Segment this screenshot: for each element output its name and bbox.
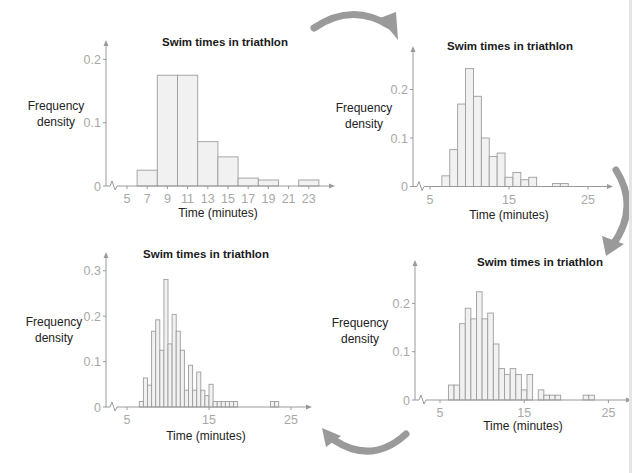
y-axis-arrow-icon: [413, 260, 418, 266]
x-tick-label: 25: [601, 406, 615, 420]
histogram-bar: [148, 385, 152, 407]
histogram-bar: [152, 331, 156, 407]
x-axis-arrow-icon: [329, 184, 335, 189]
x-axis-label: Time (minutes): [483, 419, 563, 433]
histogram-bar: [505, 177, 513, 186]
y-axis-arrow-icon: [411, 46, 416, 52]
histogram-bar: [221, 402, 225, 407]
histogram-bar: [139, 402, 143, 407]
chart-title: Swim times in triathlon: [162, 36, 288, 48]
histogram-bar: [218, 157, 238, 186]
y-tick-label: 0.3: [84, 264, 101, 278]
y-tick-label: 0.1: [84, 355, 101, 369]
y-axis-label: density: [345, 117, 383, 131]
histogram-bar: [213, 402, 217, 407]
histogram-bar: [521, 180, 529, 187]
histogram-bar: [513, 172, 521, 186]
x-tick-label: 7: [144, 192, 151, 206]
arrow-right-icon: [602, 170, 627, 256]
y-tick-label: 0: [401, 180, 408, 194]
histogram-bar: [450, 150, 458, 187]
histogram-bar: [299, 180, 319, 186]
histogram-bar: [143, 378, 147, 407]
histogram-bar: [184, 390, 188, 407]
x-tick-label: 15: [202, 413, 216, 427]
histogram-top-left: Swim times in triathlonFrequencydensityT…: [28, 36, 335, 220]
y-axis-label: Frequency: [332, 316, 389, 330]
histogram-bar: [198, 142, 218, 186]
y-tick-label: 0.2: [393, 297, 410, 311]
x-tick-label: 9: [164, 192, 171, 206]
histogram-top-right: Swim times in triathlonFrequencydensityT…: [336, 40, 613, 222]
histogram-cycle-figure: Swim times in triathlonFrequencydensityT…: [0, 0, 632, 473]
x-tick-label: 5: [437, 406, 444, 420]
y-tick-label: 0.2: [391, 83, 408, 97]
histogram-bar: [589, 395, 595, 400]
chart-title: Swim times in triathlon: [143, 248, 269, 260]
x-tick-label: 23: [302, 192, 316, 206]
x-tick-label: 11: [181, 192, 194, 206]
histogram-bar: [538, 390, 544, 400]
y-axis-arrow-icon: [104, 40, 109, 46]
y-axis-label: density: [37, 115, 75, 129]
x-tick-label: 25: [581, 193, 595, 207]
histogram-bar: [529, 177, 537, 186]
y-tick-label: 0.1: [393, 345, 410, 359]
y-tick-label: 0.1: [84, 116, 101, 130]
arrow-bottom-icon: [322, 428, 406, 451]
y-tick-label: 0: [94, 401, 101, 415]
histogram-bar: [482, 319, 488, 400]
histogram-bar: [454, 385, 460, 400]
histogram-bar: [460, 324, 466, 400]
histogram-bar: [157, 75, 177, 186]
histogram-bar: [583, 395, 589, 400]
histogram-bar: [189, 365, 193, 407]
y-tick-label: 0: [403, 394, 410, 408]
histogram-bar: [489, 156, 497, 186]
histogram-bar: [271, 402, 275, 407]
histogram-bar: [510, 369, 516, 400]
x-axis-label: Time (minutes): [166, 429, 246, 443]
histogram-bar: [275, 402, 279, 407]
histogram-bar: [160, 350, 164, 407]
histogram-bar: [555, 395, 561, 400]
chart-title: Swim times in triathlon: [477, 256, 603, 268]
histogram-bar: [521, 390, 527, 400]
histogram-bar: [499, 369, 505, 400]
histogram-bottom-right: Swim times in triathlonFrequencydensityT…: [332, 256, 632, 433]
histogram-bar: [458, 104, 466, 186]
histogram-bar: [549, 395, 555, 400]
x-tick-label: 13: [201, 192, 215, 206]
histogram-bar: [137, 170, 157, 186]
histogram-bar: [258, 180, 278, 186]
histogram-bar: [505, 374, 511, 400]
histogram-bar: [201, 390, 205, 407]
x-tick-label: 25: [284, 413, 298, 427]
x-tick-label: 15: [221, 192, 235, 206]
histogram-bar: [168, 344, 172, 407]
histogram-bar: [473, 96, 481, 186]
histogram-bar: [466, 69, 474, 187]
y-axis-label: Frequency: [28, 99, 85, 113]
y-tick-label: 0.1: [391, 132, 408, 146]
x-tick-label: 19: [261, 192, 275, 206]
histogram-bar: [209, 384, 213, 407]
histogram-bar: [516, 374, 522, 400]
histogram-bar: [193, 390, 197, 407]
histogram-bar: [234, 402, 238, 407]
histogram-bar: [465, 308, 471, 400]
histogram-bar: [476, 292, 482, 400]
x-tick-label: 5: [124, 413, 131, 427]
histogram-bar: [178, 75, 198, 186]
histogram-bar: [172, 314, 176, 407]
histogram-bar: [164, 279, 168, 407]
histogram-bar: [230, 402, 234, 407]
y-tick-label: 0.2: [84, 53, 101, 67]
histogram-bar: [176, 331, 180, 407]
histogram-bottom-left: Swim times in triathlonFrequencydensityT…: [26, 248, 312, 443]
y-tick-label: 0.2: [84, 310, 101, 324]
charts-group: Swim times in triathlonFrequencydensityT…: [26, 36, 632, 443]
x-axis-label: Time (minutes): [469, 208, 549, 222]
histogram-bar: [442, 176, 450, 187]
x-tick-label: 21: [282, 192, 296, 206]
